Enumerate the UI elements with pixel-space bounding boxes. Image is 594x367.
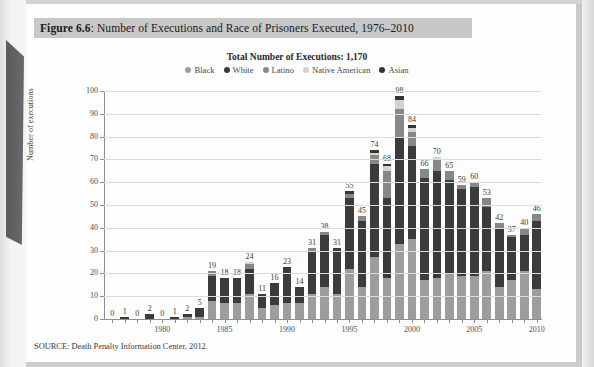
bar-segment-latino [520,228,529,235]
y-axis-tick-label: 100 [68,86,98,95]
bar-segment-white [270,283,279,306]
bar-1986[interactable]: 18 [233,278,242,319]
bar-segment-latino [408,132,417,146]
x-axis-tick [387,319,388,323]
x-axis-tick [275,319,276,323]
x-axis-tick [237,319,238,323]
bar-1995[interactable]: 55 [345,191,354,319]
y-axis-tick [100,137,104,138]
bar-segment-white [457,189,466,276]
y-gridline [104,182,541,183]
x-axis-tick [250,319,251,323]
y-axis-tick [100,159,104,160]
bar-segment-white [370,164,379,257]
bar-2006[interactable]: 53 [482,198,491,319]
y-axis-tick-label: 90 [68,109,98,118]
bar-segment-black [507,280,516,319]
x-axis-tick [212,319,213,323]
legend-item-native-american[interactable]: Native American [303,65,370,75]
bar-segment-white [345,198,354,269]
bar-segment-white [295,287,304,303]
y-axis-tick [100,205,104,206]
y-gridline [104,137,541,138]
bar-segment-white [358,221,367,287]
bar-value-label: 5 [198,298,202,307]
bar-1988[interactable]: 11 [258,294,267,319]
bar-segment-white [283,267,292,303]
bar-segment-latino [445,171,454,180]
y-axis-tick-label: 0 [68,314,98,323]
x-axis-tick [125,319,126,323]
bar-value-label: 84 [408,115,416,124]
bar-segment-black [532,289,541,319]
bar-value-label: 19 [208,261,216,270]
bar-1999[interactable]: 98 [395,96,404,319]
bar-value-label: 1 [173,307,177,316]
legend-item-white[interactable]: White [224,65,254,75]
bar-value-label: 0 [135,309,139,318]
legend-item-black[interactable]: Black [185,65,214,75]
x-axis-tick-label: 1990 [279,325,295,334]
x-axis-tick [262,319,263,323]
figure-caption-text: : Number of Executions and Race of Priso… [91,22,414,34]
bar-2000[interactable]: 84 [408,125,417,319]
bar-value-label: 2 [148,304,152,313]
x-axis-tick [337,319,338,323]
y-axis-tick-label: 80 [68,132,98,141]
bar-value-label: 53 [483,188,491,197]
bar-2007[interactable]: 42 [495,223,504,319]
bar-value-label: 40 [520,218,528,227]
bar-value-label: 2 [185,304,189,313]
bar-segment-black [345,269,354,319]
bar-1983[interactable]: 5 [195,308,204,319]
bar-1992[interactable]: 31 [308,248,317,319]
bar-1997[interactable]: 74 [370,150,379,319]
bar-value-label: 60 [470,172,478,181]
legend-swatch-icon [185,67,191,73]
y-gridline [104,205,541,206]
legend-item-latino[interactable]: Latino [263,65,294,75]
bar-segment-white [383,198,392,278]
bar-2010[interactable]: 46 [532,214,541,319]
bar-value-label: 45 [358,206,366,215]
bar-segment-black [420,280,429,319]
bar-segment-latino [532,214,541,221]
bar-segment-black [258,308,267,319]
bar-1989[interactable]: 16 [270,283,279,319]
bar-segment-white [482,207,491,271]
y-axis-tick [100,114,104,115]
legend-item-asian[interactable]: Asian [379,65,408,75]
bar-1990[interactable]: 23 [283,267,292,319]
y-axis-tick [100,273,104,274]
x-axis-tick [437,319,438,323]
bar-segment-black [220,303,229,319]
y-gridline [104,159,541,160]
x-axis-tick [487,319,488,323]
source-note: SOURCE: Death Penalty Information Center… [34,342,208,351]
bar-segment-black [208,301,217,319]
bar-segment-black [482,271,491,319]
plot-area: Number of executions 0102012519181824111… [104,91,541,319]
bar-1985[interactable]: 18 [220,278,229,319]
bar-1987[interactable]: 24 [245,262,254,319]
bar-segment-black [270,305,279,319]
bar-1984[interactable]: 19 [208,271,217,319]
bar-1991[interactable]: 14 [295,287,304,319]
bar-segment-black [495,287,504,319]
bar-value-label: 31 [333,238,341,247]
y-axis-tick [100,91,104,92]
bar-1993[interactable]: 38 [320,232,329,319]
bar-segment-white [195,308,204,317]
bar-1996[interactable]: 45 [358,216,367,319]
bar-2008[interactable]: 37 [507,235,516,319]
x-axis-tick [112,319,113,323]
legend-swatch-icon [224,67,230,73]
bar-1994[interactable]: 31 [333,248,342,319]
x-axis-tick [512,319,513,323]
x-axis-tick [499,319,500,323]
x-axis-tick [287,319,288,323]
legend-label: White [233,65,254,75]
screenshot-root: Figure 6.6: Number of Executions and Rac… [0,0,594,367]
bar-segment-latino [433,159,442,170]
y-gridline [104,91,541,92]
